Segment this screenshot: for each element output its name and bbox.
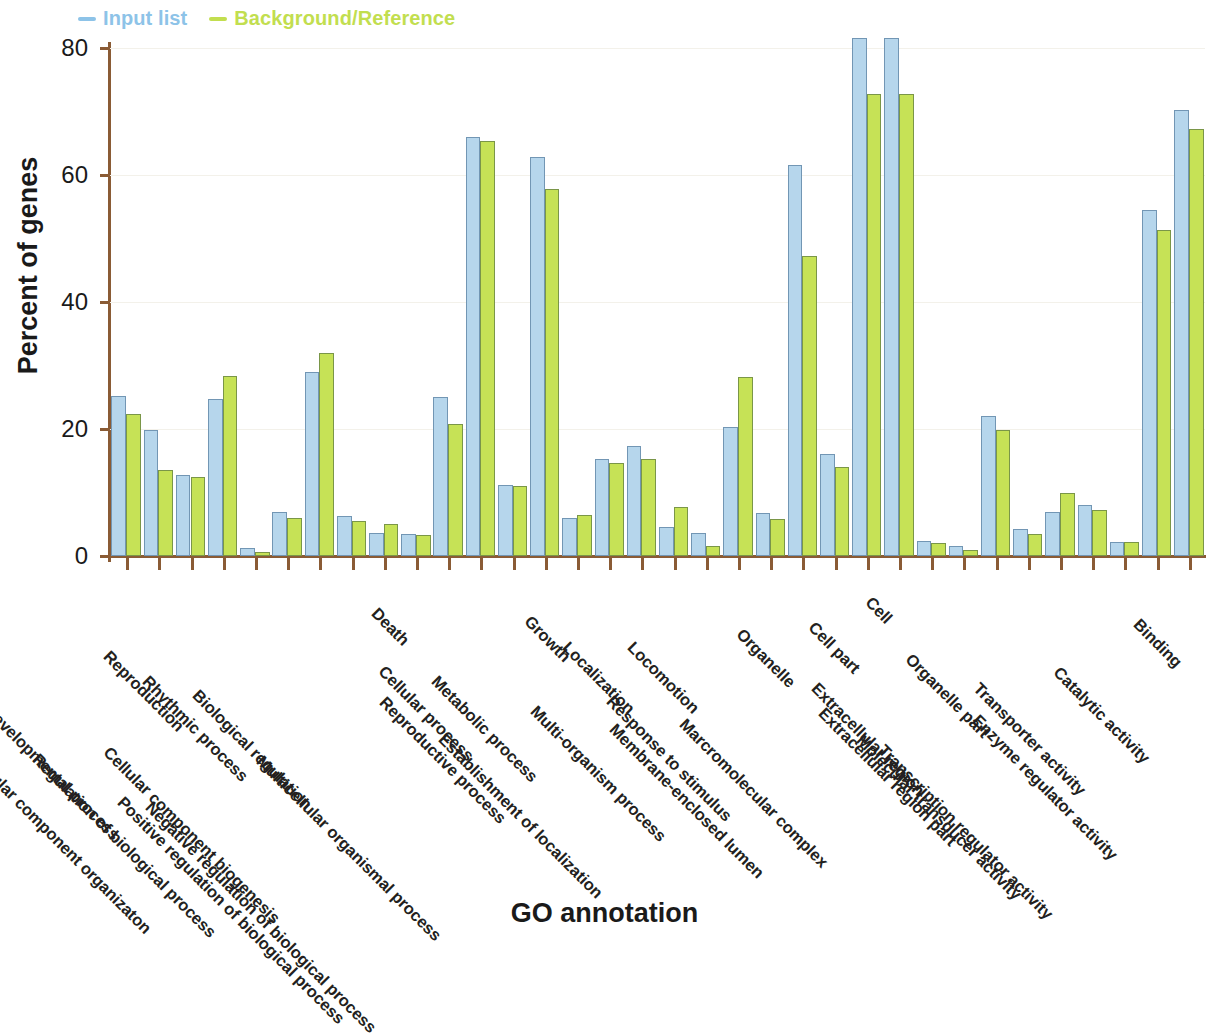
x-axis-category-label: Cell bbox=[861, 593, 896, 628]
x-axis-category-label: Organelle bbox=[733, 625, 800, 692]
x-axis-category-label: Enzyme regulator activity bbox=[969, 711, 1122, 864]
x-axis-category-label: Death bbox=[368, 604, 413, 649]
x-axis-category-label: Binding bbox=[1129, 615, 1185, 671]
x-axis-category-label: Catalytic activity bbox=[1050, 663, 1154, 767]
x-axis-category-label: Cell part bbox=[804, 618, 863, 677]
x-axis-title: GO annotation bbox=[0, 898, 1209, 929]
x-axis-category-label: Reproductive process bbox=[375, 693, 510, 828]
